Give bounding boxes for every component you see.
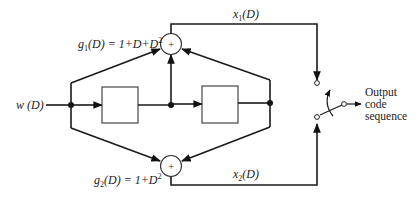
rotation-arrow-icon xyxy=(327,90,333,116)
convolutional-encoder-diagram: w (D) + + Output code sequence xyxy=(0,0,420,200)
input-label: w (D) xyxy=(16,98,44,112)
delay-element-2 xyxy=(202,86,238,123)
bottom-generator-label: g2(D) = 1+D2 xyxy=(94,172,162,189)
left-to-top-adder-line xyxy=(71,49,160,83)
right-to-top-adder-line xyxy=(182,49,270,80)
switch-terminal-top xyxy=(315,81,320,86)
delay-element-1 xyxy=(102,87,138,123)
output-label-line3: sequence xyxy=(365,110,407,123)
right-to-bottom-adder-line xyxy=(182,127,270,161)
switch-terminal-bottom xyxy=(315,115,320,120)
left-to-bottom-adder-line xyxy=(71,128,160,161)
switch-terminal-output xyxy=(342,102,347,107)
bottom-adder-plus-symbol: + xyxy=(168,160,174,172)
top-adder-plus-symbol: + xyxy=(168,38,174,50)
bottom-output-label: x2(D) xyxy=(232,167,259,183)
output-label-line2: code xyxy=(365,98,387,110)
top-generator-label: g1(D) = 1+D+D2 xyxy=(78,36,162,53)
top-output-label: x1(D) xyxy=(232,7,259,23)
